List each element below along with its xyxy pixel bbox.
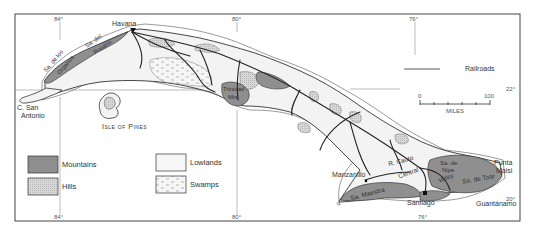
isle-hills	[104, 97, 115, 109]
lat-label-22: 22°	[506, 86, 515, 92]
label-trinidad-2: Mts.	[228, 94, 239, 100]
label-trinidad-1: Trinidad	[223, 86, 244, 92]
legend-label-hills: Hills	[62, 183, 76, 191]
scale-unit-label: MILES	[446, 108, 464, 114]
label-santiago: Santiago	[407, 199, 435, 206]
legend-swatch-mountains	[28, 156, 58, 173]
lon-label-80-top: 80°	[232, 16, 241, 22]
label-cape-san-antonio-2: Antonio	[21, 112, 45, 119]
label-guantanamo: Guantánamo	[476, 200, 516, 207]
lon-label-84-top: 84°	[54, 16, 63, 22]
legend-swatch-hills	[28, 178, 58, 195]
lon-label-80-bottom: 80°	[232, 214, 241, 220]
label-havana: Havana	[112, 20, 136, 27]
label-manzanillo: Manzanillo	[332, 171, 365, 178]
legend-swatch-lowlands	[156, 154, 186, 171]
manzanillo-marker	[365, 180, 368, 183]
lon-label-76-top: 76°	[409, 16, 418, 22]
scale-end-label: 100	[484, 93, 494, 99]
map-graphics	[0, 0, 541, 234]
scale-start-label: 0	[418, 93, 421, 99]
legend-label-mountains: Mountains	[62, 161, 97, 169]
lon-label-76-bottom: 76°	[418, 214, 427, 220]
railroads-legend-label: Railroads	[465, 65, 495, 72]
scale-bar	[420, 100, 490, 105]
lon-label-84-bottom: 84°	[54, 214, 63, 220]
legend-swatch-swamps	[156, 176, 186, 193]
santiago-marker	[423, 191, 427, 195]
cuba-physical-map: 84° 80° 76° 84° 80° 76° 22° 20° Havana C…	[0, 0, 541, 234]
legend-label-lowlands: Lowlands	[190, 159, 222, 167]
legend-label-swamps: Swamps	[190, 181, 219, 189]
label-sa-nipe-1: Sa. de	[440, 160, 457, 166]
label-cape-san-antonio-1: C. San	[17, 104, 38, 111]
cape-san-antonio-land	[20, 88, 62, 103]
label-punta-maisi-1: Punta	[494, 159, 512, 166]
label-isle-of-pines: Isle of Pines	[102, 123, 147, 130]
label-punta-maisi-2: Maisi	[496, 167, 512, 174]
